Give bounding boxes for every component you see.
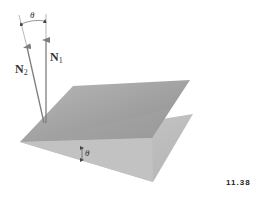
n2-label: N2 [15,63,28,77]
theta-label-planes: θ [85,149,89,158]
n2-symbol: N [15,62,24,76]
theta-arc-normals [21,20,45,24]
normal-n2-arrow [27,47,44,123]
normal-n2-extension [19,15,27,47]
n1-subscript: 1 [59,56,63,65]
intersecting-planes-diagram [0,0,268,197]
n1-label: N1 [50,51,63,65]
n1-symbol: N [50,50,59,64]
lower-plane-front [20,138,153,182]
n2-subscript: 2 [24,68,28,77]
figure-number: 11.38 [226,178,251,187]
theta-label-normals: θ [30,11,34,20]
